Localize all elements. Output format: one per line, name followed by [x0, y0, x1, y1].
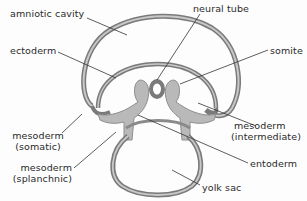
neural-tube: [149, 79, 165, 99]
label-neural-tube: neural tube: [193, 3, 249, 14]
label-mesoderm-somatic: mesoderm (somatic): [8, 130, 68, 152]
label-yolk-sac: yolk sac: [202, 182, 241, 193]
embryo-cross-section-diagram: amniotic cavity ectoderm neural tube som…: [0, 0, 307, 201]
label-mesoderm-somatic-line2: (somatic): [8, 141, 68, 152]
mesoderm-left: [98, 80, 149, 140]
label-mesoderm-intermediate-line2: (intermediate): [231, 131, 301, 142]
label-mesoderm-splanchnic-line1: mesoderm: [2, 162, 72, 173]
label-mesoderm-splanchnic-line2: (splanchnic): [2, 173, 72, 184]
yolk-sac: [113, 136, 201, 195]
label-mesoderm-splanchnic: mesoderm (splanchnic): [2, 162, 72, 184]
label-entoderm: entoderm: [250, 158, 297, 169]
label-mesoderm-intermediate: mesoderm (intermediate): [231, 120, 301, 142]
label-ectoderm: ectoderm: [10, 45, 56, 56]
label-somite: somite: [270, 45, 303, 56]
label-amniotic-cavity: amniotic cavity: [10, 8, 84, 19]
label-mesoderm-intermediate-line1: mesoderm: [231, 120, 301, 131]
label-mesoderm-somatic-line1: mesoderm: [8, 130, 68, 141]
